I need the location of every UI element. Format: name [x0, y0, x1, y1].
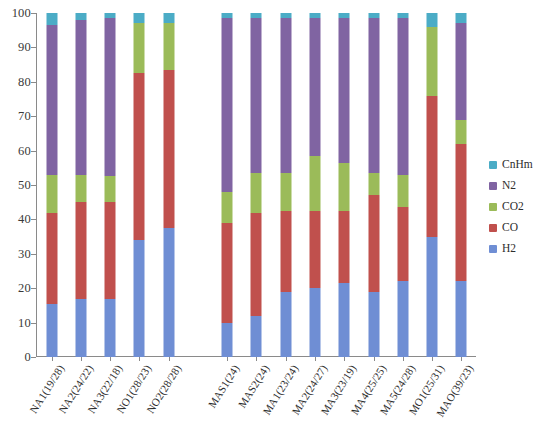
y-axis-tick-label: 30 — [18, 248, 31, 261]
bar-segment-h2 — [46, 304, 57, 357]
bar-segment-cnhm — [456, 13, 467, 23]
bar-slot — [271, 13, 300, 357]
y-axis-tick-label: 80 — [18, 76, 31, 89]
stacked-bar[interactable] — [105, 13, 116, 357]
bar-segment-cnhm — [368, 13, 379, 18]
bar-slot — [125, 13, 154, 357]
legend-swatch-icon — [489, 245, 497, 253]
bar-slot — [359, 13, 388, 357]
stacked-bar[interactable] — [456, 13, 467, 357]
bar-segment-co2 — [163, 23, 174, 69]
bar-segment-co — [280, 211, 291, 292]
y-axis-tick-label: 60 — [18, 144, 31, 157]
bar-segment-co — [222, 223, 233, 323]
bar-segment-n2 — [75, 20, 86, 175]
bar-segment-h2 — [163, 228, 174, 357]
bar-segment-h2 — [397, 281, 408, 357]
bar-segment-n2 — [105, 18, 116, 176]
legend-label: N2 — [502, 180, 516, 192]
bar-segment-cnhm — [75, 13, 86, 20]
bar-segment-n2 — [310, 18, 321, 156]
stacked-bar[interactable] — [134, 13, 145, 357]
bar-segment-co — [368, 195, 379, 291]
bar-segment-n2 — [368, 18, 379, 173]
y-axis-tick-label: 70 — [18, 110, 31, 123]
bar-segment-cnhm — [222, 13, 233, 18]
bar-segment-co — [397, 207, 408, 281]
bar-segment-co — [163, 70, 174, 228]
bar-slot — [213, 13, 242, 357]
bar-segment-cnhm — [134, 13, 145, 23]
stacked-bar[interactable] — [368, 13, 379, 357]
legend-swatch-icon — [489, 182, 497, 190]
bar-segment-co2 — [310, 156, 321, 211]
bar-segment-co — [75, 202, 86, 298]
bar-segment-co2 — [280, 173, 291, 211]
stacked-bar[interactable] — [339, 13, 350, 357]
bar-segment-co2 — [397, 175, 408, 208]
bar-segment-h2 — [75, 299, 86, 357]
bar-segment-h2 — [280, 292, 291, 357]
stacked-bar[interactable] — [46, 13, 57, 357]
bar-segment-co — [134, 73, 145, 240]
bar-slot — [154, 13, 183, 357]
bar-segment-co2 — [134, 23, 145, 73]
y-axis: 0102030405060708090100 — [0, 0, 36, 357]
y-axis-tick-label: 50 — [18, 179, 31, 192]
bar-segment-n2 — [222, 18, 233, 192]
bar-segment-co — [310, 211, 321, 288]
bar-slot — [388, 13, 417, 357]
bar-segment-co — [251, 213, 262, 316]
legend-item-n2[interactable]: N2 — [489, 175, 541, 196]
legend-swatch-icon — [489, 203, 497, 211]
bar-segment-co2 — [222, 192, 233, 223]
bar-segment-h2 — [134, 240, 145, 357]
bar-segment-cnhm — [397, 13, 408, 18]
stacked-bar[interactable] — [310, 13, 321, 357]
stacked-bar[interactable] — [75, 13, 86, 357]
bar-segment-cnhm — [310, 13, 321, 18]
stacked-bar[interactable] — [280, 13, 291, 357]
stacked-bar[interactable] — [427, 13, 438, 357]
bar-slot — [37, 13, 66, 357]
bar-segment-cnhm — [163, 13, 174, 23]
stacked-bar-chart: 0102030405060708090100 NA1(19/28)NA2(24/… — [0, 0, 541, 434]
bar-segment-co2 — [339, 163, 350, 211]
legend-item-cnhm[interactable]: CnHm — [489, 154, 541, 175]
y-axis-tick-label: 90 — [18, 41, 31, 54]
bar-slot — [242, 13, 271, 357]
bar-segment-n2 — [456, 23, 467, 119]
legend-item-co2[interactable]: CO2 — [489, 196, 541, 217]
bar-segment-n2 — [339, 18, 350, 162]
bar-slot — [66, 13, 95, 357]
bar-segment-co — [456, 144, 467, 282]
bar-segment-cnhm — [46, 13, 57, 25]
bar-segment-cnhm — [251, 13, 262, 18]
bar-segment-co — [46, 213, 57, 304]
y-axis-tick-label: 100 — [12, 7, 31, 20]
stacked-bar[interactable] — [397, 13, 408, 357]
legend-label: CO2 — [502, 201, 524, 213]
legend-label: CO — [502, 222, 518, 234]
bar-segment-cnhm — [427, 13, 438, 27]
bar-segment-co2 — [46, 175, 57, 213]
legend-label: H2 — [502, 243, 516, 255]
legend-item-h2[interactable]: H2 — [489, 238, 541, 259]
bar-slot — [417, 13, 446, 357]
bar-segment-co2 — [251, 173, 262, 213]
bar-segment-co2 — [456, 120, 467, 144]
stacked-bar[interactable] — [163, 13, 174, 357]
bar-segment-h2 — [427, 237, 438, 357]
stacked-bar[interactable] — [222, 13, 233, 357]
legend-item-co[interactable]: CO — [489, 217, 541, 238]
bar-segment-cnhm — [105, 13, 116, 18]
bar-segment-h2 — [368, 292, 379, 357]
bar-segment-co2 — [368, 173, 379, 195]
bar-segment-n2 — [46, 25, 57, 175]
bars-container — [37, 13, 476, 357]
x-axis-labels: NA1(19/28)NA2(24/22)NA3(22/18)NO1(28/23)… — [37, 357, 476, 434]
bar-segment-h2 — [222, 323, 233, 357]
bar-segment-co — [339, 211, 350, 283]
stacked-bar[interactable] — [251, 13, 262, 357]
bar-segment-co — [105, 202, 116, 298]
